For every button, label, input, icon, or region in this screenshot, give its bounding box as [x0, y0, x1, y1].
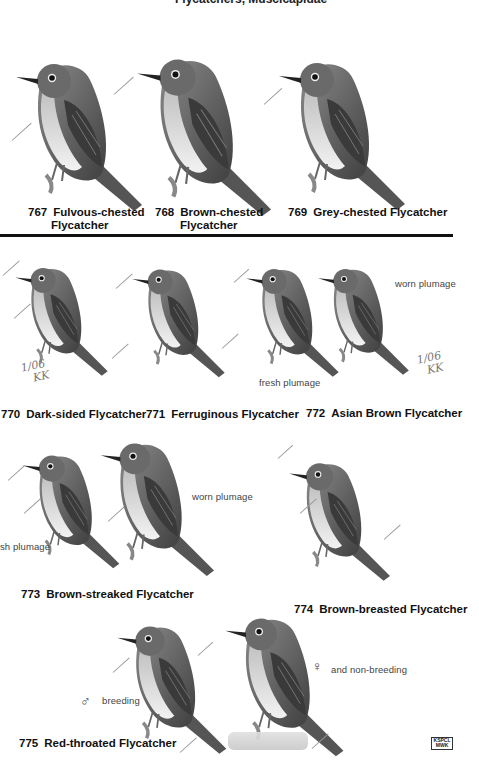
species-number: 767: [28, 206, 47, 219]
species-caption-771: 771Ferruginous Flycatcher: [146, 408, 299, 421]
bird-illustration-774: [278, 440, 398, 600]
species-number: 770: [1, 408, 20, 421]
species-name: Red-throated Flycatcher: [44, 737, 176, 749]
note-worn-plumage-773: worn plumage: [192, 491, 253, 502]
note-male-breeding: breeding: [102, 695, 140, 706]
species-caption-769: 769Grey-chested Flycatcher: [288, 206, 447, 219]
species-number: 771: [146, 408, 165, 421]
bird-illustration-770: [5, 240, 115, 400]
species-caption-775: 775Red-throated Flycatcher: [19, 737, 176, 750]
bird-illustration-773-worn: [88, 430, 223, 585]
species-caption-768: 768Brown-chested Flycatcher: [155, 206, 263, 232]
publisher-stamp: KSPCL MWK: [431, 737, 453, 750]
species-caption-772: 772Asian Brown Flycatcher: [306, 407, 462, 420]
species-number: 772: [306, 407, 325, 420]
note-worn-plumage-772: worn plumage: [395, 278, 456, 289]
section-divider: [0, 234, 453, 237]
species-name: Fulvous-chested: [53, 206, 144, 218]
species-name: Dark-sided Flycatcher: [26, 408, 146, 420]
species-name: Grey-chested Flycatcher: [313, 206, 447, 218]
species-number: 773: [21, 588, 40, 601]
note-fresh-plumage-773: sh plumage: [0, 541, 50, 552]
male-symbol-icon: ♂: [80, 693, 91, 709]
species-number: 769: [288, 206, 307, 219]
species-name: Brown-streaked Flycatcher: [46, 588, 194, 600]
species-caption-770: 770Dark-sided Flycatcher: [1, 408, 146, 421]
note-female-nonbreeding: and non-breeding: [331, 664, 407, 675]
species-name: Brown-chested: [180, 206, 263, 218]
bird-illustration-769: [255, 54, 425, 214]
species-name-cont: Flycatcher: [28, 219, 145, 232]
perch-rock: [228, 732, 308, 750]
page-header-text: Flycatchers, Muscicapidae: [175, 0, 345, 5]
species-caption-767: 767Fulvous-chested Flycatcher: [28, 206, 145, 232]
species-name: Ferruginous Flycatcher: [171, 408, 299, 420]
bird-illustration-771: [122, 244, 232, 399]
species-caption-773: 773Brown-streaked Flycatcher: [21, 588, 194, 601]
page-header-cut: Flycatchers, Muscicapidae: [175, 0, 345, 6]
stamp-line2: MWK: [432, 743, 452, 748]
species-number: 768: [155, 206, 174, 219]
bird-illustration-772-worn: [308, 240, 416, 400]
species-name-cont: Flycatcher: [155, 219, 263, 232]
artist-signature-772: 1/06 KK: [416, 350, 445, 379]
female-symbol-icon: ♀: [312, 658, 323, 674]
species-number: 775: [19, 737, 38, 750]
note-fresh-plumage-772: fresh plumage: [259, 377, 321, 388]
species-name: Asian Brown Flycatcher: [331, 407, 462, 419]
